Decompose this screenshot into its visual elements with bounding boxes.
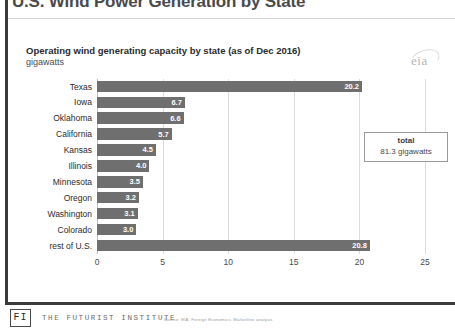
bar[interactable] bbox=[97, 81, 362, 93]
bar-value-label: 20.2 bbox=[342, 81, 359, 92]
bar-value-label: 3.1 bbox=[118, 208, 135, 219]
category-label: Iowa bbox=[74, 96, 92, 108]
x-tick-label: 20 bbox=[355, 257, 364, 267]
slide-page: U.S. Wind Power Generation by State Oper… bbox=[0, 0, 455, 333]
category-label: Illinois bbox=[68, 160, 92, 172]
chart-subtitle: Operating wind generating capacity by st… bbox=[26, 45, 301, 56]
bar-value-label: 4.5 bbox=[136, 144, 153, 155]
chart-card: Operating wind generating capacity by st… bbox=[8, 19, 455, 283]
chart-units-label: gigawatts bbox=[26, 57, 64, 67]
category-label: Kansas bbox=[64, 144, 92, 156]
x-tick-label: 0 bbox=[95, 257, 100, 267]
category-label: Texas bbox=[70, 81, 92, 93]
category-label: Oklahoma bbox=[53, 112, 92, 124]
bar-value-label: 6.6 bbox=[164, 113, 181, 124]
bar-value-label: 4.0 bbox=[129, 160, 146, 171]
bar-value-label: 3.5 bbox=[123, 176, 140, 187]
futurist-institute-logo: FI bbox=[10, 309, 31, 327]
category-label: Washington bbox=[47, 208, 92, 220]
gridline-25 bbox=[425, 79, 426, 254]
slide-bottom-border bbox=[5, 302, 455, 305]
chart-row: Texas20.2 bbox=[97, 79, 425, 95]
total-callout-box: total 81.3 gigawatts bbox=[364, 132, 448, 162]
chart-row: rest of U.S.20.8 bbox=[97, 238, 425, 254]
eia-logo-icon: eia bbox=[409, 49, 443, 71]
chart-row: Oregon3.2 bbox=[97, 190, 425, 206]
chart-plot-area: Texas20.2Iowa6.7Oklahoma6.6California5.7… bbox=[97, 79, 425, 254]
footer-source-note: Source: EIA, Foreign Economics, Marketli… bbox=[164, 317, 273, 322]
chart-row: Washington3.1 bbox=[97, 206, 425, 222]
slide-footer: FI THE FUTURIST INSTITUTE Source: EIA, F… bbox=[0, 306, 455, 333]
chart-row: Minnesota3.5 bbox=[97, 174, 425, 190]
page-title: U.S. Wind Power Generation by State bbox=[12, 0, 305, 12]
bar[interactable] bbox=[97, 240, 370, 252]
x-tick-label: 15 bbox=[289, 257, 298, 267]
category-label: Oregon bbox=[64, 192, 92, 204]
total-label: total bbox=[365, 136, 447, 146]
bar-value-label: 3.0 bbox=[116, 224, 133, 235]
x-tick-label: 10 bbox=[223, 257, 232, 267]
x-tick-label: 5 bbox=[160, 257, 165, 267]
category-label: Colorado bbox=[58, 224, 93, 236]
footer-org-name: THE FUTURIST INSTITUTE bbox=[42, 314, 176, 322]
chart-row: Colorado3.0 bbox=[97, 222, 425, 238]
category-label: California bbox=[56, 128, 92, 140]
chart-bars: Texas20.2Iowa6.7Oklahoma6.6California5.7… bbox=[97, 79, 425, 254]
eia-logo-text: eia bbox=[411, 53, 428, 69]
total-value: 81.3 gigawatts bbox=[365, 146, 447, 157]
chart-row: Oklahoma6.6 bbox=[97, 111, 425, 127]
bar-value-label: 6.7 bbox=[165, 97, 182, 108]
chart-row: Iowa6.7 bbox=[97, 95, 425, 111]
category-label: Minnesota bbox=[53, 176, 92, 188]
bar-value-label: 5.7 bbox=[152, 129, 169, 140]
bar-value-label: 3.2 bbox=[119, 192, 136, 203]
chart-x-axis: 0510152025 bbox=[97, 257, 425, 273]
bar-value-label: 20.8 bbox=[350, 240, 367, 251]
x-tick-label: 25 bbox=[420, 257, 429, 267]
category-label: rest of U.S. bbox=[49, 240, 92, 252]
slide-title-band: U.S. Wind Power Generation by State bbox=[0, 0, 455, 17]
